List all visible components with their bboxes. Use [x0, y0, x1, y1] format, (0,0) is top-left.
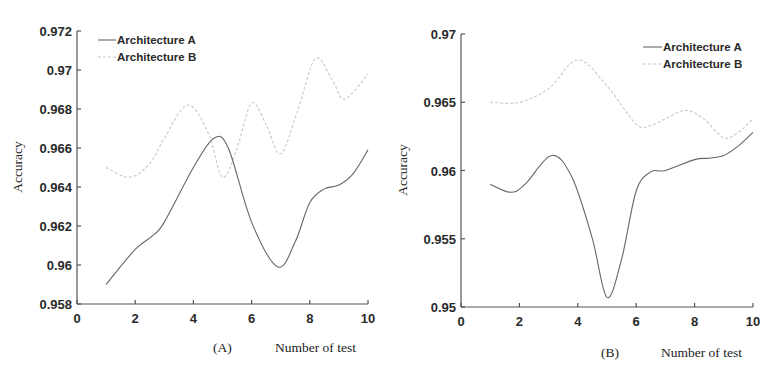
series-line-architecture-a: [490, 132, 753, 297]
legend-label: Architecture B: [117, 51, 196, 63]
y-tick-label: 0.972: [39, 24, 72, 39]
y-tick-label: 0.968: [39, 102, 72, 117]
x-tick-label: 10: [361, 311, 375, 326]
x-tick-label: 6: [633, 314, 640, 329]
legend-label: Architecture A: [117, 34, 196, 46]
x-tick-label: 8: [306, 311, 313, 326]
line-chart-b: 0.950.9550.960.9650.970246810Accuracy(B)…: [390, 0, 777, 381]
y-tick-label: 0.955: [423, 232, 456, 247]
y-tick-label: 0.96: [431, 164, 456, 179]
chart-panel-a: 0.9580.960.9620.9640.9660.9680.970.97202…: [0, 0, 390, 381]
legend-label: Architecture A: [663, 41, 742, 53]
y-tick-label: 0.966: [39, 141, 72, 156]
x-tick-label: 10: [746, 314, 760, 329]
chart-panel-b: 0.950.9550.960.9650.970246810Accuracy(B)…: [390, 0, 777, 381]
x-tick-label: 4: [190, 311, 198, 326]
y-tick-label: 0.95: [431, 300, 456, 315]
x-tick-label: 2: [516, 314, 523, 329]
line-chart-a: 0.9580.960.9620.9640.9660.9680.970.97202…: [0, 0, 390, 381]
x-axis-label: Number of test: [661, 345, 742, 360]
legend: Architecture AArchitecture B: [643, 41, 742, 70]
y-tick-label: 0.96: [47, 258, 72, 273]
panel-label: (A): [213, 340, 232, 355]
x-tick-label: 0: [457, 314, 464, 329]
axes: 0.9580.960.9620.9640.9660.9680.970.97202…: [39, 24, 375, 326]
y-axis-label: Accuracy: [10, 141, 25, 193]
y-tick-label: 0.962: [39, 219, 72, 234]
axes: 0.950.9550.960.9650.970246810: [423, 27, 760, 329]
y-tick-label: 0.97: [47, 63, 72, 78]
y-tick-label: 0.958: [39, 297, 72, 312]
y-tick-label: 0.97: [431, 27, 456, 42]
legend-label: Architecture B: [663, 58, 742, 70]
series-line-architecture-b: [106, 58, 368, 178]
series-line-architecture-b: [490, 60, 753, 138]
x-tick-label: 8: [691, 314, 698, 329]
y-tick-label: 0.964: [39, 180, 72, 195]
x-tick-label: 4: [574, 314, 582, 329]
series-line-architecture-a: [106, 136, 368, 284]
y-axis-label: Accuracy: [395, 144, 410, 196]
x-tick-label: 2: [132, 311, 139, 326]
legend: Architecture AArchitecture B: [98, 34, 196, 63]
y-tick-label: 0.965: [423, 95, 456, 110]
x-axis-label: Number of test: [275, 340, 356, 355]
x-tick-label: 6: [248, 311, 255, 326]
panel-label: (B): [601, 345, 619, 360]
x-tick-label: 0: [73, 311, 80, 326]
